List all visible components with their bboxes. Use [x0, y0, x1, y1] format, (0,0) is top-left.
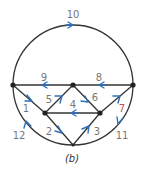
arrow-icon-edge-2 [55, 126, 62, 133]
edge-label-4: 4 [70, 99, 76, 110]
edge-label-9: 9 [41, 72, 47, 83]
edge-label-3: 3 [94, 126, 100, 137]
edge-label-7: 7 [119, 103, 125, 114]
node-bottom [72, 144, 75, 147]
node-top [70, 82, 75, 87]
edge-label-11: 11 [116, 130, 129, 141]
edge-label-8: 8 [96, 72, 102, 83]
edge-label-1: 1 [23, 103, 29, 114]
node-mid-right [97, 110, 102, 115]
edge-label-2: 2 [46, 126, 52, 137]
node-mid-left [42, 110, 47, 115]
edge-label-10: 10 [67, 9, 80, 20]
edge-label-6: 6 [92, 92, 98, 103]
node-left [10, 82, 15, 87]
edge-label-12: 12 [13, 130, 26, 141]
node-right [130, 82, 135, 87]
edge-label-5: 5 [46, 94, 52, 105]
figure-caption: (b) [65, 153, 79, 164]
directed-graph-diagram: 10 9 8 5 4 6 1 7 2 3 12 11 (b) [0, 0, 143, 176]
